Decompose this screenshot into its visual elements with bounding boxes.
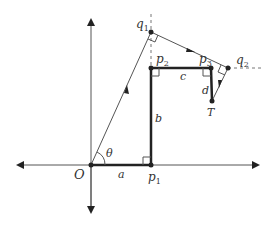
point-q2 xyxy=(226,66,231,71)
angle-arc-theta xyxy=(97,152,105,165)
diagram-canvas: O a θ b c d T p1 p2 p3 q1 q2 xyxy=(0,0,273,228)
label-p2: p2 xyxy=(156,52,169,68)
label-q1: q1 xyxy=(136,17,149,33)
point-T xyxy=(210,99,215,104)
label-p3: p3 xyxy=(199,52,212,68)
segment-d xyxy=(211,68,212,101)
label-c: c xyxy=(180,70,186,83)
point-O xyxy=(89,163,94,168)
label-p1: p1 xyxy=(148,170,161,186)
label-T: T xyxy=(207,106,216,119)
label-a: a xyxy=(118,168,125,181)
point-p1 xyxy=(149,163,154,168)
label-d: d xyxy=(202,84,209,97)
label-theta: θ xyxy=(106,147,113,160)
point-p2 xyxy=(149,66,154,71)
arrow-q1-q2 xyxy=(186,48,195,52)
label-q2: q2 xyxy=(236,53,249,69)
point-q1 xyxy=(149,30,154,35)
label-b: b xyxy=(155,112,162,125)
line-O-q1 xyxy=(91,32,151,165)
label-O: O xyxy=(74,167,85,182)
